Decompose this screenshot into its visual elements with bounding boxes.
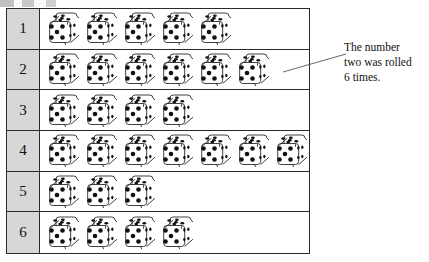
tally-row: 5 (7, 172, 309, 213)
die-icon (273, 134, 307, 167)
callout-annotation: The number two was rolled 6 times. (344, 40, 429, 85)
die-icon (83, 94, 117, 127)
die-icon (159, 53, 193, 86)
die-icon (45, 94, 79, 127)
row-dice-5 (40, 172, 309, 212)
annotation-line-3: 6 times. (344, 70, 429, 85)
die-icon (45, 12, 79, 45)
die-icon (159, 94, 193, 127)
die-icon (235, 53, 269, 86)
tally-row: 4 (7, 131, 309, 172)
annotation-line-2: two was rolled (344, 55, 429, 70)
row-dice-4 (40, 131, 311, 171)
die-icon (83, 53, 117, 86)
row-label-6: 6 (7, 212, 40, 253)
scan-artifact (0, 0, 120, 7)
die-icon (45, 175, 79, 208)
tally-row: 6 (7, 212, 309, 253)
row-dice-6 (40, 212, 309, 253)
row-label-5: 5 (7, 172, 40, 212)
die-icon (159, 12, 193, 45)
figure-canvas: 1 (0, 0, 429, 262)
die-icon (83, 134, 117, 167)
die-icon (159, 134, 193, 167)
row-label-3: 3 (7, 90, 40, 130)
die-icon (197, 134, 231, 167)
die-icon (45, 216, 79, 249)
die-icon (121, 53, 155, 86)
die-icon (121, 134, 155, 167)
row-dice-2 (40, 50, 309, 90)
die-icon (235, 134, 269, 167)
callout-leader-line (280, 44, 350, 80)
die-icon (83, 216, 117, 249)
die-icon (121, 94, 155, 127)
row-dice-3 (40, 90, 309, 130)
die-icon (83, 12, 117, 45)
row-dice-1 (40, 9, 309, 49)
tally-row: 2 (7, 50, 309, 91)
die-icon (45, 53, 79, 86)
row-label-4: 4 (7, 131, 40, 171)
die-icon (45, 134, 79, 167)
tally-row: 1 (7, 9, 309, 50)
row-label-2: 2 (7, 50, 40, 90)
die-icon (83, 175, 117, 208)
tally-row: 3 (7, 90, 309, 131)
die-icon (197, 12, 231, 45)
tally-table: 1 (6, 8, 310, 254)
die-icon (121, 12, 155, 45)
die-icon (121, 175, 155, 208)
annotation-line-1: The number (344, 40, 429, 55)
die-icon (159, 216, 193, 249)
row-label-1: 1 (7, 9, 40, 49)
die-icon (121, 216, 155, 249)
die-icon (197, 53, 231, 86)
